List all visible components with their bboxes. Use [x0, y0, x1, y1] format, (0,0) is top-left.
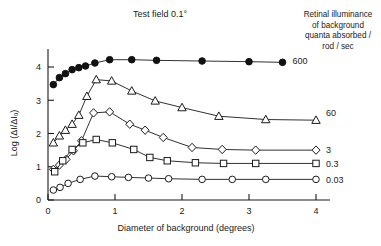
series-marker-3	[126, 120, 134, 128]
series-label-600: 600	[293, 56, 308, 66]
series-marker-3	[141, 126, 149, 134]
series-marker-600	[153, 57, 160, 64]
y-tick-label-4: 4	[36, 62, 41, 72]
series-marker-60	[83, 92, 91, 100]
series-marker-600	[128, 56, 135, 63]
series-marker-0.3	[164, 158, 170, 164]
series-marker-60	[128, 87, 136, 95]
series-marker-0.3	[52, 169, 58, 175]
series-marker-3	[106, 108, 114, 116]
series-marker-0.3	[147, 154, 153, 160]
series-marker-600	[82, 63, 89, 70]
series-label-3: 3	[326, 145, 331, 155]
series-marker-600	[50, 81, 57, 88]
series-marker-60	[92, 75, 100, 83]
series-marker-0.03	[57, 184, 64, 191]
series-marker-0.3	[80, 140, 86, 146]
series-marker-0.03	[199, 176, 206, 183]
series-marker-0.03	[65, 180, 72, 187]
y-tick-label-1: 1	[36, 162, 41, 172]
series-marker-3	[90, 109, 98, 117]
series-marker-60	[75, 111, 83, 119]
y-axis-label: Log (ΔI/ΔIₒ)	[9, 110, 19, 156]
series-marker-3	[218, 145, 226, 153]
legend-header-line-1: of background	[312, 21, 364, 30]
series-marker-0.3	[220, 160, 226, 166]
series-marker-3	[188, 143, 196, 151]
series-marker-600	[106, 56, 113, 63]
y-tick-label-3: 3	[36, 96, 41, 106]
x-axis-label: Diameter of background (degrees)	[117, 223, 254, 233]
series-marker-0.3	[93, 136, 99, 142]
series-marker-0.03	[262, 176, 269, 183]
series-marker-0.3	[313, 160, 319, 166]
y-tick-label-0: 0	[36, 195, 41, 205]
x-tick-label-0: 0	[45, 206, 50, 216]
series-line-0.3	[55, 139, 316, 171]
x-tick-label-3: 3	[246, 206, 251, 216]
series-marker-0.03	[229, 176, 236, 183]
legend-header-line-3: rod / sec	[322, 42, 353, 51]
series-marker-0.3	[60, 158, 66, 164]
series-marker-0.3	[131, 146, 137, 152]
series-marker-0.3	[192, 160, 198, 166]
series-marker-0.03	[125, 174, 132, 181]
series-marker-600	[199, 58, 206, 65]
series-label-0.3: 0.3	[326, 159, 339, 169]
series-marker-3	[159, 133, 167, 141]
chart-title: Test field 0.1°	[133, 9, 188, 19]
series-marker-60	[312, 116, 320, 124]
series-marker-60	[68, 120, 76, 128]
series-marker-0.03	[77, 176, 84, 183]
x-tick-label-2: 2	[179, 206, 184, 216]
series-label-60: 60	[326, 108, 336, 118]
series-marker-60	[151, 97, 159, 105]
series-marker-0.03	[92, 173, 99, 180]
series-marker-600	[76, 64, 83, 71]
series-marker-0.3	[253, 160, 259, 166]
chart-canvas: Test field 0.1°Retinal illuminanceof bac…	[0, 0, 381, 246]
x-tick-label-1: 1	[112, 206, 117, 216]
series-marker-600	[56, 74, 63, 81]
x-tick-label-4: 4	[313, 206, 318, 216]
series-marker-600	[246, 58, 253, 65]
legend-header-line-0: Retinal illuminance	[304, 10, 373, 19]
series-marker-600	[279, 59, 286, 66]
series-marker-3	[312, 146, 320, 154]
y-tick-label-2: 2	[36, 129, 41, 139]
series-marker-0.3	[69, 146, 75, 152]
series-marker-0.3	[109, 140, 115, 146]
series-marker-3	[252, 146, 260, 154]
series-marker-0.03	[313, 176, 320, 183]
series-marker-600	[92, 60, 99, 67]
series-label-0.03: 0.03	[326, 175, 344, 185]
series-marker-0.03	[50, 187, 57, 194]
legend-header-line-2: quanta absorbed /	[305, 31, 372, 40]
series-marker-0.03	[145, 175, 152, 182]
series-marker-0.03	[108, 173, 115, 180]
series-marker-600	[62, 70, 69, 77]
series-marker-600	[69, 66, 76, 73]
series-marker-0.03	[165, 175, 172, 182]
chart-figure: Test field 0.1°Retinal illuminanceof bac…	[0, 0, 381, 246]
